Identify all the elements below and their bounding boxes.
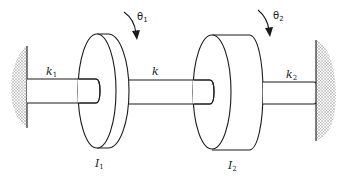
theta2-rotation-arrow-icon <box>258 10 273 37</box>
shaft-k2 <box>263 82 318 104</box>
disc-I2 <box>193 35 263 150</box>
label-theta1: θ1 <box>137 11 148 24</box>
label-theta2: θ2 <box>273 10 284 23</box>
label-k1: k1 <box>46 65 57 79</box>
left-wall <box>11 46 27 128</box>
label-k2: k2 <box>286 68 297 82</box>
label-I1: I1 <box>94 157 104 171</box>
label-k: k <box>152 65 159 78</box>
right-wall <box>316 40 336 141</box>
disc-I1 <box>78 34 129 148</box>
label-I2: I2 <box>227 159 237 173</box>
torsional-system-diagram: k1 k k2 I1 I2 θ1 θ2 <box>0 0 347 181</box>
